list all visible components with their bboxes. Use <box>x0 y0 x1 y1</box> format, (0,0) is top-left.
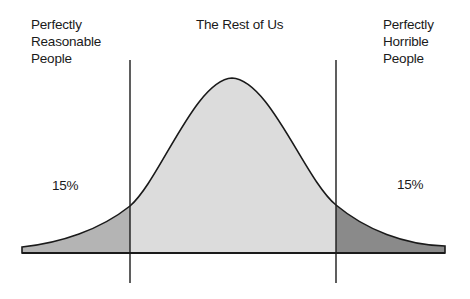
label-perfectly-horrible-people: Perfectly Horrible People <box>383 16 434 67</box>
label-line: The Rest of Us <box>196 16 283 33</box>
label-line: People <box>383 50 434 67</box>
label-line: People <box>31 50 101 67</box>
center-region <box>22 78 445 253</box>
percent-left: 15% <box>52 178 78 193</box>
label-line: Reasonable <box>31 33 101 50</box>
label-the-rest-of-us: The Rest of Us <box>196 16 283 33</box>
percent-right: 15% <box>397 177 423 192</box>
label-line: Perfectly <box>31 16 101 33</box>
label-line: Horrible <box>383 33 434 50</box>
label-line: Perfectly <box>383 16 434 33</box>
label-perfectly-reasonable-people: Perfectly Reasonable People <box>31 16 101 67</box>
